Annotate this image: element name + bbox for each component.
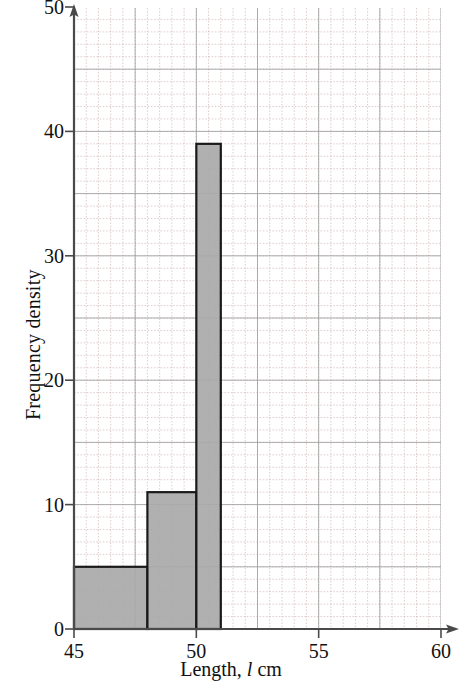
x-axis-title-before: Length,	[180, 658, 242, 680]
x-axis-title-variable: l	[247, 658, 253, 680]
histogram-plot-area	[0, 0, 462, 688]
y-axis-tick-label: 10	[18, 495, 64, 515]
histogram-figure: 01020304050 45505560 Frequency density L…	[0, 0, 462, 688]
x-axis-tickmarks	[74, 629, 441, 638]
y-axis-tick-label: 50	[18, 0, 64, 17]
y-axis-tick-label: 40	[18, 121, 64, 141]
x-axis-title-after: cm	[257, 658, 281, 680]
y-axis-tick-label: 30	[18, 246, 64, 266]
y-axis-tick-label: 0	[18, 619, 64, 639]
histogram-bar	[196, 144, 220, 629]
y-axis-tickmarks	[65, 7, 74, 629]
y-axis-title: Frequency density	[22, 269, 45, 420]
histogram-bar	[147, 492, 196, 629]
x-axis-title: Length, l cm	[0, 658, 462, 681]
histogram-bar	[74, 567, 147, 629]
